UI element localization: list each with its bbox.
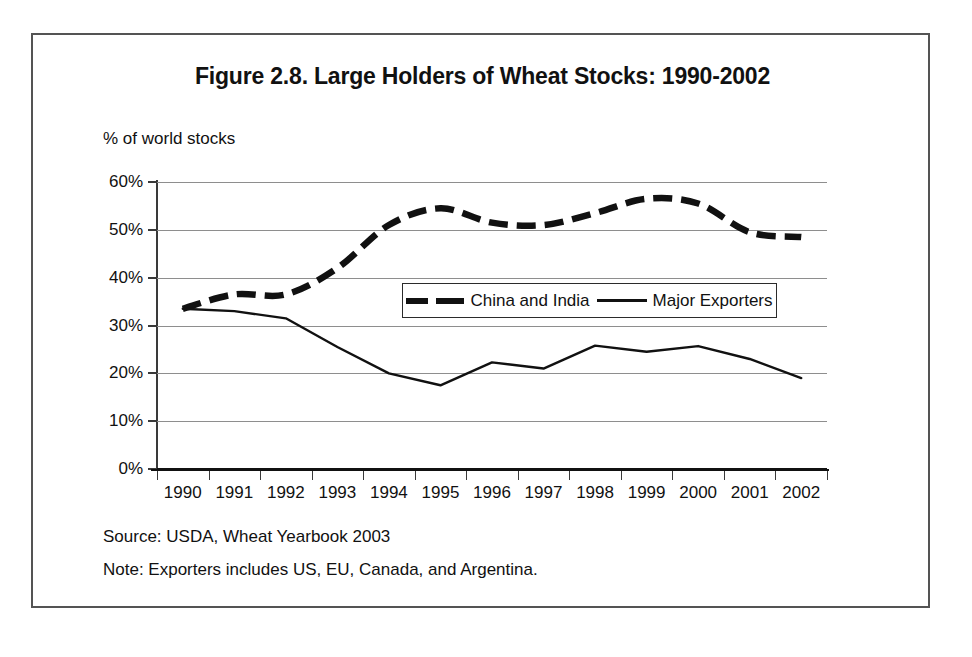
y-axis-tick: [148, 325, 157, 327]
x-axis-tick: [260, 471, 261, 480]
solid-line-swatch-icon: [597, 299, 647, 302]
y-axis-tick-label: 50%: [83, 220, 143, 240]
legend-label-major-exporters: Major Exporters: [653, 291, 773, 311]
chart-plot-area: 0%10%20%30%40%50%60% 1990199119921993199…: [157, 182, 827, 469]
source-caption: Source: USDA, Wheat Yearbook 2003: [103, 527, 390, 547]
page-title: Figure 2.8. Large Holders of Wheat Stock…: [33, 63, 932, 90]
x-axis-line: [151, 469, 829, 471]
y-axis-tick-label: 20%: [83, 363, 143, 383]
x-axis-tick: [724, 471, 725, 480]
legend-item-major-exporters: Major Exporters: [597, 291, 773, 311]
y-axis-tick-label: 0%: [83, 459, 143, 479]
y-axis-tick: [148, 277, 157, 279]
series-line-major-exporters: [183, 309, 801, 386]
y-axis-tick: [148, 229, 157, 231]
dashed-line-swatch-icon: [406, 298, 464, 304]
x-axis-tick: [157, 471, 158, 480]
y-axis-tick-label: 30%: [83, 316, 143, 336]
y-axis-tick: [148, 372, 157, 374]
chart-legend: China and India Major Exporters: [402, 283, 777, 318]
y-axis-tick-label: 60%: [83, 172, 143, 192]
x-axis-tick: [775, 471, 776, 480]
y-axis-tick-label: 10%: [83, 411, 143, 431]
x-axis-tick: [415, 471, 416, 480]
note-caption: Note: Exporters includes US, EU, Canada,…: [103, 560, 538, 580]
x-axis-tick: [466, 471, 467, 480]
x-axis-tick: [518, 471, 519, 480]
legend-item-china-and-india: China and India: [406, 291, 589, 311]
x-axis-tick-label: 2002: [771, 483, 831, 503]
figure-frame: Figure 2.8. Large Holders of Wheat Stock…: [31, 33, 930, 608]
x-axis-tick: [209, 471, 210, 480]
y-axis-tick-label: 40%: [83, 268, 143, 288]
x-axis-tick: [363, 471, 364, 480]
series-lines: [157, 182, 827, 469]
y-axis-unit-label: % of world stocks: [103, 129, 235, 149]
y-axis-tick: [148, 181, 157, 183]
x-axis-tick: [569, 471, 570, 480]
x-axis-tick: [827, 471, 828, 480]
legend-label-china-and-india: China and India: [470, 291, 589, 311]
x-axis-tick: [672, 471, 673, 480]
x-axis-tick: [312, 471, 313, 480]
y-axis-tick: [148, 420, 157, 422]
x-axis-tick: [621, 471, 622, 480]
